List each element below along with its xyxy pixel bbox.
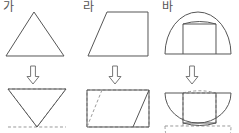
bottom-shape-panel-2 xyxy=(80,86,160,133)
inscribed-rectangle xyxy=(183,24,216,54)
semicircle-rectangle-figure xyxy=(159,8,239,64)
solid-right-slant xyxy=(133,90,149,127)
arrow-container-2 xyxy=(80,62,160,88)
figure-column-3: 바 xyxy=(159,0,239,133)
triangle-figure xyxy=(0,8,80,64)
down-block-arrow-icon xyxy=(108,65,122,85)
rectangle-parallelogram-figure xyxy=(80,86,160,133)
trapezoid-figure xyxy=(80,8,160,64)
star-overlap-figure xyxy=(0,86,80,133)
ellipse-mirror-figure xyxy=(159,86,239,133)
solid-lower-arc xyxy=(165,93,231,123)
down-block-arrow-icon xyxy=(185,65,199,85)
dashed-upright-triangle xyxy=(8,89,66,127)
triangle-outline xyxy=(6,12,64,56)
bottom-shape-panel-3 xyxy=(159,86,239,133)
top-shape-panel-2 xyxy=(80,8,160,64)
bottom-shape-panel-1 xyxy=(0,86,80,133)
solid-inverted-triangle xyxy=(8,89,66,127)
top-shape-panel-3 xyxy=(159,8,239,64)
figure-column-2: 라 xyxy=(80,0,160,133)
solid-rectangle-outline xyxy=(87,90,149,127)
top-shape-panel-1 xyxy=(0,8,80,64)
dashed-rectangle xyxy=(87,90,149,127)
figure-sheet: 가 라 xyxy=(0,0,239,133)
dashed-lower-arc xyxy=(165,126,231,133)
figure-column-1: 가 xyxy=(0,0,80,133)
arrow-container-1 xyxy=(0,62,80,88)
dashed-left-slant xyxy=(87,90,102,127)
semicircle-arc xyxy=(165,12,231,54)
trapezoid-outline xyxy=(88,12,148,56)
solid-rectangle-3 xyxy=(183,93,216,123)
down-block-arrow-icon xyxy=(26,65,40,85)
arrow-container-3 xyxy=(159,62,239,88)
